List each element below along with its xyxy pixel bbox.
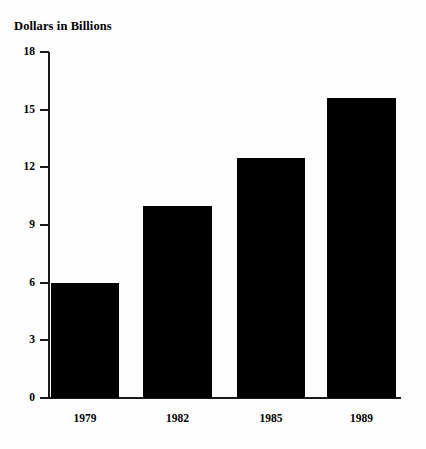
- y-axis-tick: [40, 397, 49, 399]
- bar: [143, 206, 212, 398]
- y-axis-tick: [40, 166, 49, 168]
- y-axis-tick: [40, 224, 49, 226]
- y-axis-tick-label: 18: [5, 45, 35, 57]
- y-axis-tick-label: 0: [5, 391, 35, 403]
- bar: [237, 158, 305, 398]
- chart-title: Dollars in Billions: [14, 19, 112, 33]
- y-axis-tick: [40, 51, 49, 53]
- bar: [327, 98, 396, 398]
- x-axis-tick-label: 1979: [50, 412, 120, 425]
- y-axis-tick-label: 3: [5, 333, 35, 345]
- y-axis-tick-label: 6: [5, 276, 35, 288]
- x-axis-tick-label: 1989: [327, 412, 397, 425]
- y-axis-tick-label: 9: [5, 218, 35, 230]
- bar-chart: Dollars in Billions 0369121518 197919821…: [0, 0, 426, 449]
- x-axis-tick-label: 1985: [236, 412, 306, 425]
- x-axis-tick-label: 1982: [143, 412, 213, 425]
- y-axis-tick: [40, 282, 49, 284]
- y-axis-tick-label: 15: [5, 103, 35, 115]
- y-axis-tick: [40, 339, 49, 341]
- bar: [51, 283, 119, 398]
- y-axis-tick-label: 12: [5, 160, 35, 172]
- y-axis-tick: [40, 109, 49, 111]
